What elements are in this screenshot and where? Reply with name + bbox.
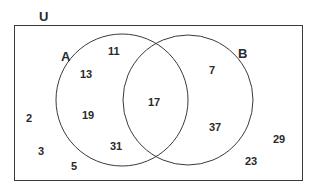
element-outside: 23 xyxy=(245,155,257,167)
element-outside: 29 xyxy=(273,133,285,145)
element-b-only: 37 xyxy=(209,121,221,133)
element-intersection: 17 xyxy=(148,96,160,108)
element-a-only: 11 xyxy=(108,45,120,57)
set-a-label: A xyxy=(61,49,71,64)
element-a-only: 13 xyxy=(80,68,92,80)
element-outside: 3 xyxy=(38,145,44,157)
element-a-only: 19 xyxy=(82,109,94,121)
universe-label: U xyxy=(39,9,48,24)
element-outside: 2 xyxy=(26,112,32,124)
set-b-label: B xyxy=(238,46,247,61)
element-b-only: 7 xyxy=(209,64,215,76)
element-a-only: 31 xyxy=(110,140,122,152)
venn-diagram: U A B 11 13 19 31 17 7 37 2 3 5 29 23 xyxy=(0,0,312,188)
element-outside: 5 xyxy=(71,160,77,172)
